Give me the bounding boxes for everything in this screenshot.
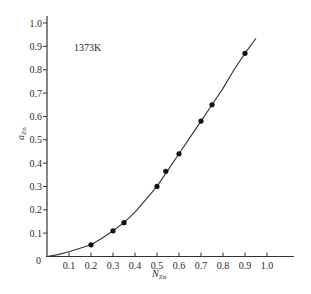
y-tick-label: 0.6 [30,111,43,122]
x-tick-label: 0.9 [239,260,252,271]
x-tick-label: 0.6 [173,260,186,271]
data-point [209,102,214,107]
chart: 0.10.20.30.40.50.60.70.80.91.0 0.10.20.3… [0,0,311,294]
y-tick-label: 0.4 [30,158,43,169]
data-points [88,51,247,248]
data-point [198,118,203,123]
x-tick-label: 0.4 [129,260,142,271]
data-point [163,169,168,174]
y-tick-label: 0.5 [30,134,43,145]
data-point [88,242,93,247]
data-point [154,184,159,189]
y-tick-label: 0.9 [30,41,43,52]
temperature-annotation: 1373K [74,42,102,53]
y-tick-label: 0.7 [30,88,43,99]
y-tick-label: 1.0 [30,18,43,29]
origin-label: 0 [36,255,41,266]
data-point [121,220,126,225]
x-tick-label: 1.0 [261,260,274,271]
x-ticks: 0.10.20.30.40.50.60.70.80.91.0 [63,253,274,271]
x-tick-label: 0.8 [217,260,230,271]
y-tick-label: 0.3 [30,181,43,192]
y-tick-label: 0.1 [30,228,43,239]
y-tick-label: 0.8 [30,64,43,75]
y-tick-label: 0.2 [30,204,43,215]
x-tick-label: 0.7 [195,260,208,271]
x-tick-label: 0.2 [85,260,98,271]
data-point [176,151,181,156]
y-axis-label: aZn [15,127,28,140]
x-tick-label: 0.1 [63,260,76,271]
fitted-curve [47,38,256,256]
y-ticks: 0.10.20.30.40.50.60.70.80.91.0 [30,18,48,239]
data-point [110,228,115,233]
x-tick-label: 0.3 [107,260,120,271]
data-point [242,51,247,56]
